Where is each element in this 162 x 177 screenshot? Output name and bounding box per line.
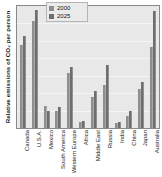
bar-group bbox=[20, 36, 26, 128]
legend-item-2000: 2000 bbox=[49, 4, 85, 12]
bar bbox=[82, 121, 85, 128]
x-tick-label-text: India bbox=[119, 130, 125, 143]
y-axis-label: Relative emissions of CO₂ per person bbox=[4, 10, 11, 123]
x-tick-label-text: U.S.A. bbox=[36, 130, 42, 147]
x-tick-label-text: China bbox=[131, 130, 137, 146]
bar-group bbox=[115, 122, 121, 128]
bars-layer bbox=[17, 6, 159, 128]
bar-chart: Relative emissions of CO₂ per person 200… bbox=[0, 0, 162, 177]
bar bbox=[118, 122, 121, 128]
legend-swatch-icon bbox=[49, 6, 54, 11]
bar-group bbox=[55, 107, 61, 128]
bar bbox=[70, 67, 73, 128]
x-tick-label-text: South America bbox=[60, 130, 66, 169]
legend-label: 2000 bbox=[57, 4, 70, 12]
x-tick-label-text: Australia bbox=[154, 130, 160, 153]
y-axis-label-container: Relative emissions of CO₂ per person bbox=[0, 5, 14, 128]
x-axis-tick-labels: CanadaU.S.A.MexicoSouth AmericaWestern E… bbox=[16, 130, 160, 177]
x-tick-label-text: Russia bbox=[107, 130, 113, 148]
bar bbox=[141, 82, 144, 128]
x-tick-label-text: Japan bbox=[142, 130, 148, 146]
chart-legend: 2000 2025 bbox=[46, 2, 88, 22]
legend-label: 2025 bbox=[57, 12, 70, 20]
bar bbox=[106, 65, 109, 128]
x-tick-label-text: Mexico bbox=[48, 130, 54, 149]
bar bbox=[94, 91, 97, 128]
bar-group bbox=[79, 121, 85, 128]
bar-group bbox=[91, 91, 97, 128]
bar-group bbox=[126, 111, 132, 128]
x-tick-label-text: Africa bbox=[83, 130, 89, 145]
legend-swatch-icon bbox=[49, 14, 54, 19]
bar bbox=[35, 10, 38, 128]
bar-group bbox=[138, 82, 144, 128]
bar bbox=[129, 111, 132, 128]
bar-group bbox=[44, 106, 50, 128]
bar bbox=[23, 36, 26, 128]
bar-group bbox=[150, 11, 156, 128]
legend-item-2025: 2025 bbox=[49, 12, 85, 20]
bar-group bbox=[103, 65, 109, 128]
plot-area bbox=[16, 5, 160, 129]
bar bbox=[58, 107, 61, 128]
bar bbox=[47, 111, 50, 128]
bar bbox=[153, 11, 156, 128]
x-tick-label-text: Middle East bbox=[95, 130, 101, 161]
x-tick-label-text: Western Europe bbox=[71, 130, 77, 173]
bar-group bbox=[32, 10, 38, 128]
bar-group bbox=[67, 67, 73, 128]
x-tick-label-text: Canada bbox=[24, 130, 30, 151]
